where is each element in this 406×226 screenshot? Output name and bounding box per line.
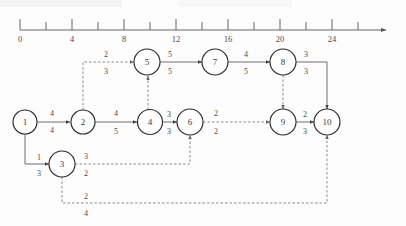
node-8[interactable]: 8 xyxy=(270,49,296,75)
edge-label-1-3-bottom: 3 xyxy=(37,169,41,178)
node-6-label: 6 xyxy=(188,117,193,127)
edge-label-4-6-top: 3 xyxy=(167,110,171,119)
node-2[interactable]: 2 xyxy=(71,110,95,134)
edge-8-to-10 xyxy=(296,62,327,109)
node-group: 1 2 3 4 5 6 7 xyxy=(13,49,340,177)
edge-label-7-8-bottom: 5 xyxy=(244,67,248,76)
edge-label-1-2-top: 4 xyxy=(50,109,54,118)
network-diagram-svg: 0 4 8 12 16 20 24 xyxy=(0,0,406,226)
edge-label-group: 4 4 4 5 2 3 5 5 4 5 3 3 3 3 2 2 2 3 1 3 … xyxy=(37,50,308,218)
edge-label-9-10-bottom: 3 xyxy=(303,127,307,136)
edge-label-8-10-top: 3 xyxy=(304,50,308,59)
node-10[interactable]: 10 xyxy=(314,109,340,135)
node-3-label: 3 xyxy=(60,159,65,169)
edge-label-5-7-bottom: 5 xyxy=(168,67,172,76)
edge-label-2-5-top: 2 xyxy=(104,50,108,59)
node-8-label: 8 xyxy=(281,57,286,67)
edge-label-8-10-bottom: 3 xyxy=(304,67,308,76)
edge-label-3-10-bottom: 4 xyxy=(84,209,88,218)
diagram-canvas: 0 4 8 12 16 20 24 xyxy=(0,0,406,226)
edge-label-3-6-bottom: 2 xyxy=(84,169,88,178)
node-1[interactable]: 1 xyxy=(13,110,37,134)
node-9-label: 9 xyxy=(281,117,286,127)
edge-2-to-5 xyxy=(83,62,134,110)
node-5[interactable]: 5 xyxy=(134,49,160,75)
node-5-label: 5 xyxy=(145,57,150,67)
node-3[interactable]: 3 xyxy=(49,151,75,177)
axis-tick-label-12: 12 xyxy=(172,34,181,44)
node-9[interactable]: 9 xyxy=(270,109,296,135)
edge-3-to-10 xyxy=(62,135,327,203)
edge-label-2-4-bottom: 5 xyxy=(114,127,118,136)
edge-label-4-6-bottom: 3 xyxy=(167,127,171,136)
node-7-label: 7 xyxy=(213,57,218,67)
axis-tick-label-8: 8 xyxy=(122,34,126,44)
edge-label-3-6-top: 3 xyxy=(84,152,88,161)
node-4-label: 4 xyxy=(148,117,153,127)
edge-label-2-5-bottom: 3 xyxy=(104,67,108,76)
edge-label-5-7-top: 5 xyxy=(168,50,172,59)
edge-label-6-9-bottom: 2 xyxy=(214,127,218,136)
edge-label-1-3-top: 1 xyxy=(37,153,41,162)
node-1-label: 1 xyxy=(23,117,28,127)
edge-label-1-2-bottom: 4 xyxy=(50,126,54,135)
axis-tick-label-24: 24 xyxy=(328,34,337,44)
node-7[interactable]: 7 xyxy=(202,49,228,75)
node-10-label: 10 xyxy=(323,117,333,127)
time-axis: 0 4 8 12 16 20 24 xyxy=(18,19,386,44)
node-6[interactable]: 6 xyxy=(177,109,203,135)
axis-tick-label-16: 16 xyxy=(224,34,233,44)
edge-label-3-10-top: 2 xyxy=(84,192,88,201)
edge-label-7-8-top: 4 xyxy=(244,50,248,59)
axis-tick-label-20: 20 xyxy=(276,34,285,44)
axis-tick-label-4: 4 xyxy=(70,34,75,44)
axis-tick-label-0: 0 xyxy=(18,34,22,44)
node-4[interactable]: 4 xyxy=(138,110,163,135)
edge-label-2-4-top: 4 xyxy=(114,109,118,118)
edge-label-9-10-top: 2 xyxy=(303,110,307,119)
node-2-label: 2 xyxy=(81,117,86,127)
edge-3-to-6 xyxy=(75,135,190,164)
edge-label-6-9-top: 2 xyxy=(214,109,218,118)
